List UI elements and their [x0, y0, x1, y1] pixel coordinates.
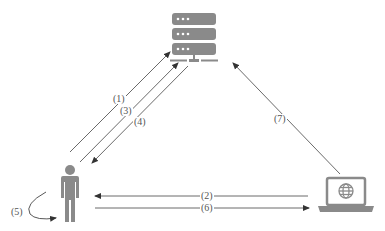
edge-1-label: (1)	[112, 94, 126, 104]
edge-5-arrow	[29, 192, 56, 219]
edge-4-label: (4)	[133, 117, 147, 127]
laptop-globe-icon	[318, 178, 374, 212]
edge-6-label: (6)	[200, 203, 214, 213]
edge-3-label: (3)	[119, 106, 133, 116]
edge-4-arrow	[92, 66, 188, 163]
edge-7-label: (7)	[273, 114, 287, 124]
server-icon	[170, 13, 218, 62]
flow-diagram	[0, 0, 385, 231]
person-icon	[61, 165, 79, 222]
edge-5-label: (5)	[10, 207, 24, 217]
edge-2-label: (2)	[200, 191, 214, 201]
